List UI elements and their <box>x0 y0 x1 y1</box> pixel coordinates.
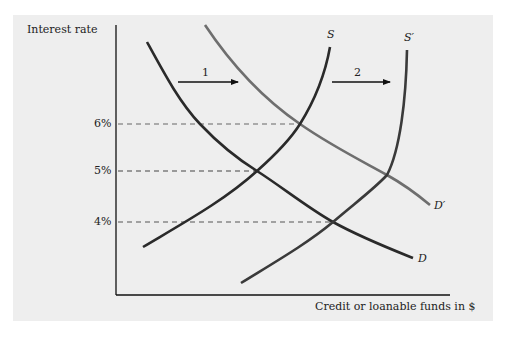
chart-svg <box>0 0 510 337</box>
tick-5pct: 5% <box>94 164 111 177</box>
curve-label-d-prime: D′ <box>434 199 445 212</box>
tick-4pct: 4% <box>94 215 111 228</box>
arrow-1-label: 1 <box>202 66 209 79</box>
curve-label-s-prime: S′ <box>404 31 414 44</box>
curve-d-prime <box>205 25 430 205</box>
curve-label-d: D <box>418 252 427 265</box>
arrow-2-label: 2 <box>354 66 361 79</box>
tick-6pct: 6% <box>94 117 111 130</box>
curve-s-prime <box>241 50 407 283</box>
curve-label-s: S <box>327 28 335 41</box>
y-axis-label: Interest rate <box>27 23 97 36</box>
x-axis-label: Credit or loanable funds in $ <box>315 300 475 313</box>
curve-s <box>143 47 330 247</box>
